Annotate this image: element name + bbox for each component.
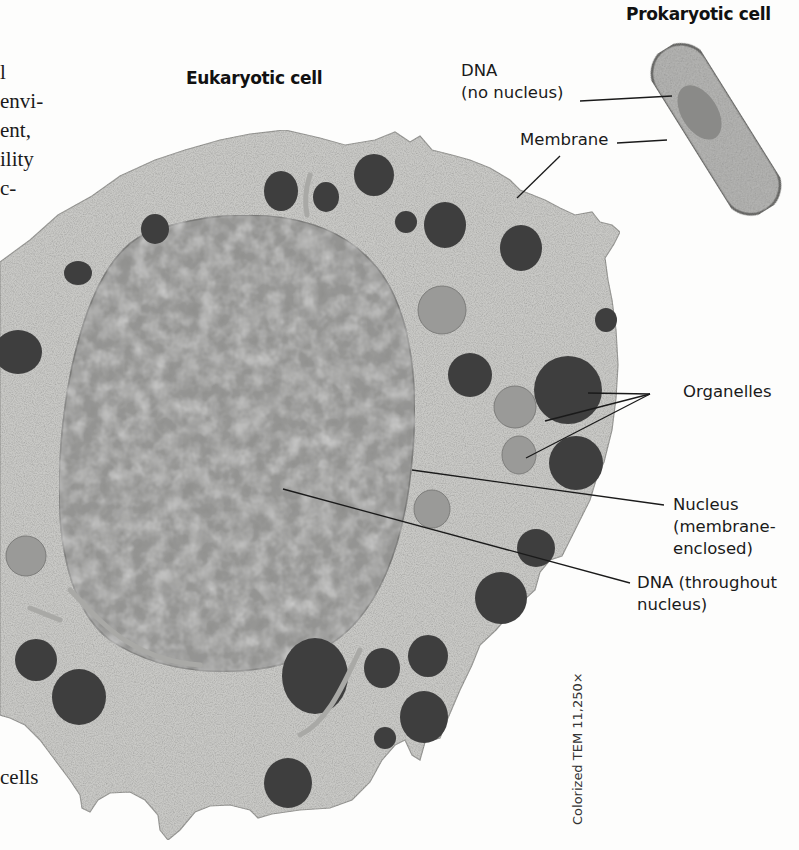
leader-prok-membrane	[617, 140, 667, 143]
label-euk-dna: DNA (throughout nucleus)	[637, 572, 777, 616]
leader-euk-membrane	[517, 156, 560, 198]
micrograph	[0, 0, 799, 850]
prokaryotic-cell	[641, 33, 791, 225]
label-prok-dna: DNA (no nucleus)	[461, 60, 563, 104]
magnification-credit: Colorized TEM 11,250×	[570, 672, 585, 825]
eukaryotic-cell-title: Eukaryotic cell	[186, 68, 322, 88]
leader-prok-dna	[580, 96, 672, 101]
label-organelles: Organelles	[683, 381, 772, 403]
label-nucleus: Nucleus (membrane- enclosed)	[673, 494, 776, 560]
textbook-page: l envi- ent, ility c- cells	[0, 0, 799, 850]
prokaryotic-cell-title: Prokaryotic cell	[626, 4, 771, 24]
label-membrane: Membrane	[520, 129, 608, 151]
nucleus	[59, 215, 414, 671]
eukaryotic-cell	[0, 130, 620, 840]
